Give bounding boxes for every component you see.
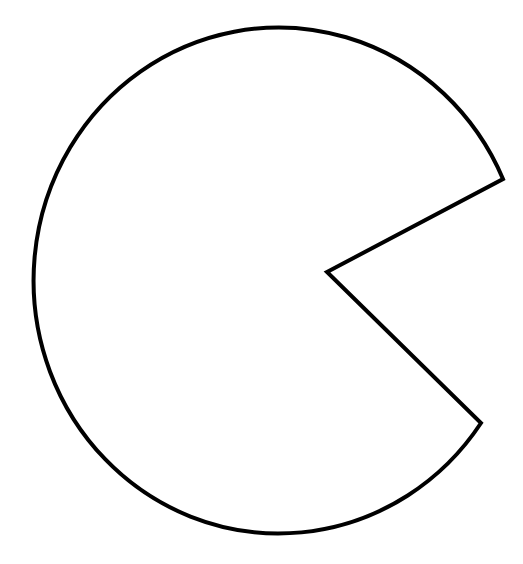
pacman-shape	[34, 27, 503, 533]
pacman-outline-diagram	[0, 0, 523, 564]
